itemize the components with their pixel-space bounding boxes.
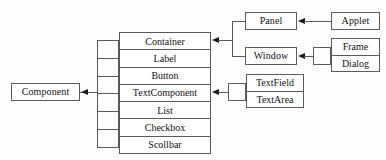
node-panel-label: Panel <box>260 16 283 26</box>
node-dialog-label: Dialog <box>342 58 369 69</box>
node-textarea-label: TextArea <box>256 94 293 105</box>
node-textarea: TextArea <box>247 92 303 108</box>
node-textfield-label: TextField <box>256 77 294 88</box>
node-panel: Panel <box>245 12 297 30</box>
node-window: Window <box>245 47 297 65</box>
node-button-label: Button <box>151 70 178 81</box>
edge-container-to-panel <box>232 21 245 22</box>
bracket-segment <box>98 112 118 130</box>
node-label: Label <box>120 50 210 67</box>
node-list: List <box>120 102 210 119</box>
edge-window-stub <box>304 56 314 57</box>
node-component-label: Component <box>22 87 70 97</box>
node-button: Button <box>120 68 210 85</box>
node-applet-label: Applet <box>342 16 370 26</box>
node-label-label: Label <box>154 53 177 64</box>
edge-container-to-window <box>232 56 245 57</box>
edge-container-stub <box>218 40 233 41</box>
edge-container-bracket-vertical <box>232 21 233 56</box>
node-checkbox: Checkbox <box>120 119 210 136</box>
node-scollbar: Scollbar <box>120 137 210 153</box>
arrowhead-component <box>81 89 88 95</box>
node-frame-label: Frame <box>343 41 369 52</box>
bracket-segment <box>98 59 118 77</box>
bracket-segment <box>98 41 118 59</box>
node-window-label: Window <box>254 51 289 61</box>
node-container-label: Container <box>145 36 184 47</box>
node-container: Container <box>120 33 210 50</box>
node-textcomponent-label: TextComponent <box>133 87 197 98</box>
bracket-segment <box>98 130 118 147</box>
node-dialog: Dialog <box>332 56 379 72</box>
stack-window-subclasses: Frame Dialog <box>331 38 380 72</box>
node-applet: Applet <box>331 12 380 30</box>
edge-panel-to-applet <box>304 21 331 22</box>
node-checkbox-label: Checkbox <box>145 122 186 133</box>
bracket-segment <box>98 94 118 112</box>
stack-component-subclasses: Container Label Button TextComponent Lis… <box>119 32 211 154</box>
bracket-window-subclasses <box>313 47 331 65</box>
node-scollbar-label: Scollbar <box>148 139 181 150</box>
stack-textcomponent-subclasses: TextField TextArea <box>246 74 304 108</box>
node-frame: Frame <box>332 39 379 56</box>
node-textfield: TextField <box>247 75 303 92</box>
node-component: Component <box>11 83 80 101</box>
class-hierarchy-diagram: Component Container Label Button TextCom… <box>0 0 386 160</box>
node-textcomponent: TextComponent <box>120 85 210 102</box>
bracket-segment <box>98 77 118 95</box>
bracket-component-subclasses <box>97 40 119 148</box>
node-list-label: List <box>157 105 173 116</box>
bracket-textcomponent-subclasses <box>228 83 246 101</box>
